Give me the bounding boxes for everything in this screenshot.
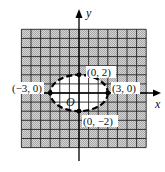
origin-label: O [66, 95, 75, 109]
x-axis-label: x [154, 97, 161, 111]
point-label-top: (0, 2) [87, 66, 111, 79]
point-label-left: (−3, 0) [12, 82, 42, 95]
vertex-point [105, 91, 110, 96]
vertex-point [48, 91, 53, 96]
point-label-bottom: (0, −2) [83, 115, 113, 128]
ellipse-graph: (0, 2) (−3, 0) (3, 0) (0, −2) O x y [0, 0, 165, 172]
x-axis-arrow-icon [153, 90, 161, 97]
point-label-right: (3, 0) [112, 82, 136, 95]
y-axis-arrow-icon [76, 9, 83, 18]
vertex-point [77, 109, 82, 114]
y-axis-label: y [85, 6, 92, 20]
vertex-point [77, 72, 82, 77]
